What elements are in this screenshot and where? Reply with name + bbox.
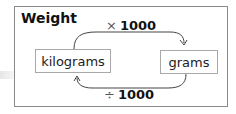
multiply-icon: × xyxy=(106,18,117,33)
backward-arrow-icon xyxy=(77,74,186,88)
grams-box: grams xyxy=(160,50,218,74)
divide-value: 1000 xyxy=(118,87,154,102)
multiply-label: ×1000 xyxy=(106,18,156,33)
divide-label: ÷1000 xyxy=(104,87,154,102)
forward-arrow-icon xyxy=(74,32,184,49)
kilograms-box: kilograms xyxy=(35,49,111,73)
grams-label: grams xyxy=(169,55,210,70)
kilograms-label: kilograms xyxy=(41,54,105,69)
divide-icon: ÷ xyxy=(104,87,115,102)
multiply-value: 1000 xyxy=(120,18,156,33)
